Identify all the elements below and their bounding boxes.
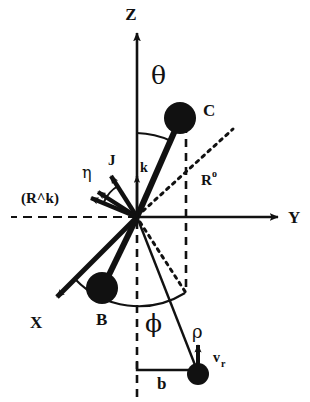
j-vector-label: J	[108, 152, 116, 168]
vr-label-subscript: r	[221, 358, 226, 369]
x-axis-label: X	[30, 313, 43, 332]
atom-c-sphere	[164, 102, 196, 134]
diagram-canvas: Z Y X θ ϕ C B J k η (R^k) R o ρ v r b	[0, 0, 310, 402]
r0-label-base: R	[201, 172, 212, 188]
atom-b-label: B	[96, 310, 107, 329]
coordinate-system-diagram: Z Y X θ ϕ C B J k η (R^k) R o ρ v r b	[0, 0, 310, 402]
eta-vector-label: η	[82, 163, 92, 182]
impact-parameter-label: b	[157, 374, 166, 393]
k-vector-label: k	[140, 160, 148, 175]
r0-label-superscript: o	[212, 168, 217, 179]
rk-vector-label: (R^k)	[21, 190, 59, 207]
atom-b-sphere	[86, 272, 118, 304]
vr-label-base: v	[213, 350, 220, 365]
z-axis-label: Z	[125, 5, 136, 24]
atom-c-label: C	[203, 101, 215, 120]
y-axis-label: Y	[288, 208, 300, 227]
theta-angle-label: θ	[151, 61, 166, 90]
rho-label: ρ	[192, 321, 203, 342]
phi-angle-label: ϕ	[145, 309, 162, 338]
